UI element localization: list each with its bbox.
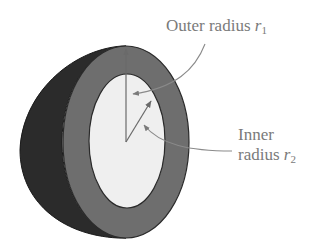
outer-radius-label-text: Outer radius [166,16,255,35]
inner-radius-subscript: 2 [290,153,296,165]
inner-radius-label-line2: radius r2 [238,145,296,166]
inner-radius-label-text: radius [238,145,284,164]
outer-radius-subscript: 1 [261,24,267,36]
inner-radius-label: Inner radius r2 [238,125,296,165]
inner-radius-label-line1: Inner [238,125,296,145]
outer-radius-label: Outer radius r1 [166,16,267,37]
